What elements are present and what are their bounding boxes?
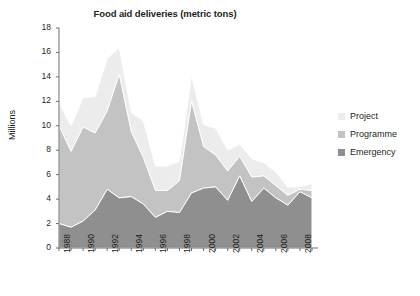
y-axis-tick-label: 12 [29,96,51,105]
y-axis-tick-label: 10 [29,121,51,130]
y-axis-tick-label: 8 [29,145,51,154]
x-axis-tick-label: 2004 [256,234,265,253]
legend-swatch-icon [338,149,345,156]
legend-item-programme[interactable]: Programme [338,126,420,142]
y-axis-tick-label: 4 [29,194,51,203]
chart-page: Food aid deliveries (metric tons) Millio… [0,0,420,296]
x-axis-tick-label: 1988 [63,234,72,253]
x-axis-tick-label: 1996 [159,234,168,253]
legend-item-label: Project [350,111,378,121]
y-axis-tick-label: 0 [29,243,51,252]
x-axis-tick-label: 1998 [183,234,192,253]
legend-item-emergency[interactable]: Emergency [338,144,420,160]
x-axis-tick-label: 1992 [111,234,120,253]
x-axis-tick-label: 2008 [304,234,313,253]
legend-item-project[interactable]: Project [338,108,420,124]
y-axis-tick-label: 18 [29,23,51,32]
x-axis-tick-label: 2000 [208,234,217,253]
y-axis-tick-label: 2 [29,219,51,228]
x-axis-tick-label: 1994 [135,234,144,253]
y-axis-tick-label: 16 [29,47,51,56]
x-axis-tick-label: 2006 [280,234,289,253]
x-axis-tick-label: 1990 [87,234,96,253]
legend-swatch-icon [338,113,345,120]
y-axis-tick-label: 6 [29,170,51,179]
y-axis-tick-label: 14 [29,72,51,81]
chart-legend: ProjectProgrammeEmergency [338,108,420,162]
legend-swatch-icon [338,131,345,138]
x-axis-tick-label: 2002 [232,234,241,253]
legend-item-label: Emergency [350,147,396,157]
legend-item-label: Programme [350,129,397,139]
